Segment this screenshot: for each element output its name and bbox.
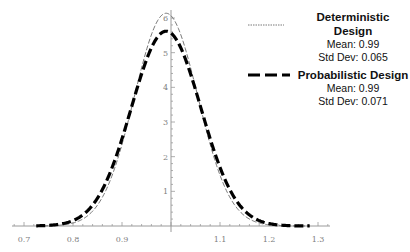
legend-entry-probabilistic: Probabilistic Design Mean: 0.99 Std Dev:…: [296, 68, 410, 108]
legend-swatches: [248, 25, 290, 75]
x-tick-label: 0.7: [18, 235, 31, 244]
legend-std-deterministic: Std Dev: 0.065: [296, 51, 410, 64]
y-tick-label: 2: [163, 153, 168, 162]
legend-std-probabilistic: Std Dev: 0.071: [296, 95, 410, 108]
y-tick-label: 4: [163, 83, 168, 92]
x-tick-label: 1.2: [263, 235, 276, 244]
legend-mean-probabilistic: Mean: 0.99: [296, 82, 410, 95]
y-tick-label: 5: [163, 49, 168, 58]
deterministic-curve: [36, 13, 309, 226]
x-tick-label: 0.9: [116, 235, 129, 244]
legend-mean-deterministic: Mean: 0.99: [296, 38, 410, 51]
x-tick-label: 0.8: [67, 235, 80, 244]
curves: [36, 13, 309, 226]
y-tick-label: 3: [163, 118, 168, 127]
x-tick-label: 1.1: [214, 235, 227, 244]
y-tick-label: 1: [163, 187, 168, 196]
legend-entry-deterministic: Deterministic Design Mean: 0.99 Std Dev:…: [296, 10, 410, 64]
x-tick-label: 1.3: [312, 235, 325, 244]
axes: 0.70.80.91.11.21.3123456: [12, 10, 330, 244]
legend-title-deterministic: Deterministic Design: [296, 10, 410, 38]
y-tick-label: 6: [163, 14, 168, 23]
legend-title-probabilistic: Probabilistic Design: [296, 68, 410, 82]
